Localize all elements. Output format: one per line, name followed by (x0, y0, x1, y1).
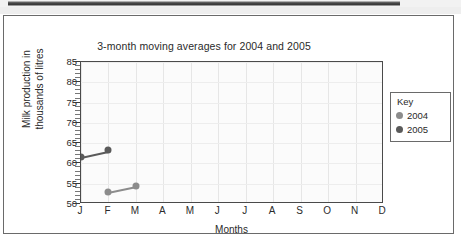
y-major-tick (73, 203, 80, 204)
data-point-marker (132, 183, 139, 190)
plot-area (80, 61, 383, 203)
scan-light-strip (0, 7, 461, 14)
x-tick-label: A (269, 205, 276, 216)
y-major-tick (73, 81, 80, 82)
legend-title: Key (397, 96, 413, 107)
data-point-marker (105, 188, 112, 195)
x-tick-label: S (296, 205, 303, 216)
x-tick-label: M (131, 205, 139, 216)
legend-label: 2005 (407, 124, 428, 135)
x-axis-title: Months (80, 224, 383, 235)
page-scan-bar (0, 0, 461, 14)
x-tick-label: D (378, 205, 385, 216)
x-axis-tick-labels: JFMAMJJASOND (80, 205, 383, 219)
x-tick-label: J (78, 205, 83, 216)
x-tick-label: O (323, 205, 331, 216)
legend-entry: 2005 (396, 124, 428, 135)
y-axis-title: Milk production in thousands of litres (20, 30, 46, 148)
scan-dark-strip (8, 1, 400, 6)
data-point-marker (105, 147, 112, 154)
data-point-marker (80, 153, 85, 160)
y-major-tick (73, 142, 80, 143)
y-axis-major-ticks (72, 61, 80, 203)
y-major-tick (73, 61, 80, 62)
x-tick-label: M (186, 205, 194, 216)
y-major-tick (73, 122, 80, 123)
data-series-layer (81, 62, 382, 202)
legend-label: 2004 (407, 110, 428, 121)
y-major-tick (73, 102, 80, 103)
x-tick-label: J (215, 205, 220, 216)
figure-frame: 3-month moving averages for 2004 and 200… (3, 15, 454, 234)
legend-marker-icon (396, 126, 403, 133)
y-major-tick (73, 183, 80, 184)
legend-marker-icon (396, 112, 403, 119)
legend-entry: 2004 (396, 110, 428, 121)
legend-key-box: Key 20042005 (390, 92, 451, 142)
x-tick-label: N (351, 205, 358, 216)
y-axis-title-line2: thousands of litres (33, 30, 46, 148)
x-tick-label: J (242, 205, 247, 216)
x-tick-label: A (159, 205, 166, 216)
x-tick-label: F (104, 205, 110, 216)
chart-title: 3-month moving averages for 2004 and 200… (4, 40, 404, 52)
y-major-tick (73, 162, 80, 163)
y-axis-title-line1: Milk production in (21, 50, 32, 128)
